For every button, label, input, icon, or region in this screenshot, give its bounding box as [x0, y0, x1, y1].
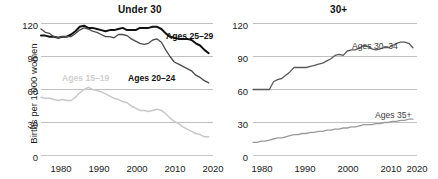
- series-label-ages-30-34: Ages 30–34: [352, 41, 398, 51]
- right-ytick-90: 90: [222, 53, 248, 64]
- series-label-ages-35-plus: Ages 35+: [375, 110, 412, 120]
- series-label-ages-20-24: Ages 20–24: [128, 73, 175, 83]
- right-ytick-30: 30: [222, 119, 248, 130]
- right-xtick-2020: 2020: [400, 163, 434, 174]
- left-xtick-1980: 1980: [44, 163, 78, 174]
- right-ytick-0: 0: [222, 152, 248, 163]
- chart-plot-area: [0, 0, 438, 179]
- right-ytick-120: 120: [222, 20, 248, 31]
- left-xtick-1990: 1990: [82, 163, 116, 174]
- left-ytick-0: 0: [12, 152, 38, 163]
- series-label-ages-25-29: Ages 25–29: [166, 31, 213, 41]
- series-line-ages-15-19: [41, 87, 209, 137]
- series-lines-right: [253, 42, 413, 142]
- left-ytick-60: 60: [12, 86, 38, 97]
- series-label-ages-15-19: Ages 15–19: [62, 73, 109, 83]
- left-xtick-2020: 2020: [196, 163, 230, 174]
- right-xtick-2000: 2000: [331, 163, 365, 174]
- left-ytick-120: 120: [12, 20, 38, 31]
- figure-container: Under 30 30+ Births per 1,000 women 120 …: [0, 0, 438, 179]
- left-ytick-30: 30: [12, 119, 38, 130]
- right-xtick-1980: 1980: [245, 163, 279, 174]
- panel-title-under-30: Under 30: [118, 4, 162, 15]
- gridlines-left: [41, 24, 213, 156]
- left-xtick-2000: 2000: [120, 163, 154, 174]
- right-ytick-60: 60: [222, 86, 248, 97]
- right-xtick-1990: 1990: [288, 163, 322, 174]
- panel-title-30-plus: 30+: [330, 4, 347, 15]
- left-xtick-2010: 2010: [158, 163, 192, 174]
- left-ytick-90: 90: [12, 53, 38, 64]
